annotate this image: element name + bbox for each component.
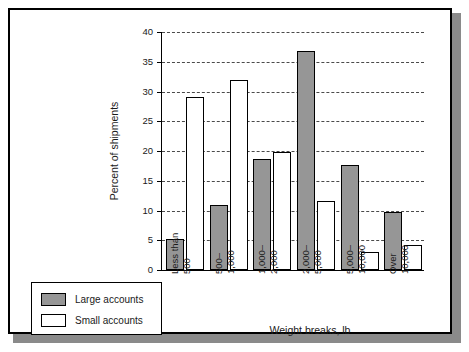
- legend-swatch-large-accounts: [41, 293, 66, 306]
- x-axis-category-label: 500–1,000: [213, 208, 243, 274]
- y-axis-tick-label: 25: [131, 116, 153, 126]
- legend-label: Small accounts: [75, 315, 143, 326]
- x-axis-category-label: 5,000–10,000: [344, 208, 374, 274]
- y-axis-tick-label: 15: [131, 176, 153, 186]
- x-axis-category-label: 1,000–2,000: [256, 208, 286, 274]
- y-axis-tick-mark: [157, 92, 161, 93]
- y-axis-tick-mark: [157, 181, 161, 182]
- legend-swatch-small-accounts: [41, 314, 66, 327]
- y-axis-tick-label: 30: [131, 87, 153, 97]
- y-axis-tick-mark: [157, 121, 161, 122]
- y-axis-tick-label: 5: [131, 235, 153, 245]
- chart-legend: Large accountsSmall accounts: [31, 282, 162, 335]
- chart-figure-frame: Percent of shipments 0510152025303540 Le…: [8, 8, 452, 334]
- plot-area: [161, 32, 424, 271]
- y-axis-tick-mark: [157, 240, 161, 241]
- y-axis-tick-label: 35: [131, 57, 153, 67]
- y-axis-tick-mark: [157, 151, 161, 152]
- y-axis-tick-label: 0: [131, 265, 153, 275]
- legend-item: Small accounts: [41, 312, 143, 328]
- legend-label: Large accounts: [75, 294, 143, 305]
- y-axis-title: Percent of shipments: [106, 32, 122, 270]
- y-axis-tick-label: 20: [131, 146, 153, 156]
- x-axis-category-label: Less than500: [169, 208, 199, 274]
- y-axis-tick-label: 10: [131, 206, 153, 216]
- y-axis-tick-mark: [157, 270, 161, 271]
- y-axis-tick-mark: [157, 211, 161, 212]
- y-axis-tick-mark: [157, 32, 161, 33]
- y-axis-tick-label: 40: [131, 27, 153, 37]
- x-axis-title: Weight breaks, lb: [210, 324, 410, 336]
- legend-item: Large accounts: [41, 291, 143, 307]
- x-axis-category-label: 2,000–5,000: [300, 208, 330, 274]
- y-axis-tick-mark: [157, 62, 161, 63]
- x-axis-category-label: Over10,000: [387, 208, 417, 274]
